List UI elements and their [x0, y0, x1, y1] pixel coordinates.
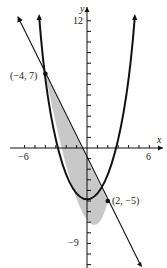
y-ticks: [87, 21, 91, 265]
parabola-left-arrow-icon: [37, 14, 42, 20]
x-axis-label: x: [156, 134, 162, 145]
shaded-region: [45, 74, 107, 225]
y-tick-label-neg9: −9: [68, 237, 79, 248]
point-b-label: (2, −5): [112, 195, 139, 207]
point-a-label: (−4, 7): [10, 70, 37, 82]
parabola-right-arrow-icon: [132, 14, 137, 20]
y-axis-label: y: [79, 3, 85, 14]
point-a: [43, 72, 48, 77]
graph: y x 12 −6 6 −9 (−4, 7) (2, −5): [0, 0, 167, 268]
y-axis-arrow-icon: [85, 7, 90, 12]
x-tick-label-neg6: −6: [18, 151, 29, 162]
x-axis-arrow-icon: [158, 146, 163, 151]
x-tick-label-6: 6: [146, 151, 151, 162]
y-tick-label-12: 12: [73, 15, 83, 26]
point-b: [106, 199, 111, 204]
line-graph: [18, 17, 141, 266]
